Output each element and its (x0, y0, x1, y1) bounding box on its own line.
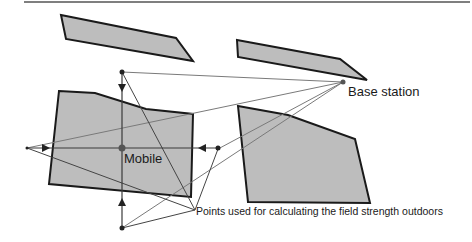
arrow-up-icon (118, 198, 126, 206)
building-mobile (49, 91, 193, 197)
arrow-left-icon (198, 144, 206, 152)
point-left (26, 147, 29, 150)
point-bottom (120, 226, 125, 231)
point-top (120, 70, 125, 75)
base-station-label: Base station (348, 84, 420, 99)
mobile-label: Mobile (124, 151, 162, 166)
building-top-left (61, 15, 193, 61)
arrow-right-icon (42, 144, 50, 152)
building-top-right (237, 40, 367, 80)
base-station-point (341, 80, 346, 85)
points-label: Points used for calculating the field st… (196, 205, 443, 217)
building-right (238, 106, 370, 203)
arrow-down-icon (118, 84, 126, 92)
point-right (216, 146, 221, 151)
